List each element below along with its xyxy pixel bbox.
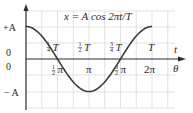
svg-text:π: π [86, 63, 92, 75]
svg-text:2: 2 [52, 70, 55, 76]
y-tick-plus-a: +A [3, 22, 17, 33]
x-tick-angle-3: 32π [115, 63, 127, 76]
x-tick-angle-4: 2π [144, 63, 156, 75]
chart-title: x = A cos 2πt/T [63, 10, 132, 22]
svg-text:T: T [148, 41, 155, 53]
svg-text:π: π [58, 63, 64, 75]
svg-text:2π: 2π [144, 63, 156, 75]
svg-text:T: T [84, 41, 91, 53]
svg-text:T: T [53, 41, 60, 53]
x-axis-label-t: t [174, 43, 178, 55]
x-axis-label-theta: θ [173, 62, 179, 74]
x-tick-time-3: 34T [110, 41, 123, 53]
y-tick-zero-bottom: 0 [6, 61, 11, 72]
x-tick-time-2: 12T [78, 41, 91, 53]
x-tick-time-1: 14T [47, 41, 60, 53]
y-axis-arrow-icon [24, 4, 29, 11]
svg-text:2: 2 [79, 47, 82, 53]
x-tick-time-4: T [148, 41, 155, 53]
x-axis-arrow-icon [178, 57, 186, 62]
svg-text:2: 2 [115, 70, 118, 76]
x-tick-angle-1: 12π [52, 63, 64, 76]
svg-text:4: 4 [110, 47, 113, 53]
cosine-chart: x = A cos 2πt/T +A 0 0 − A 14T12T34TT12π… [0, 0, 193, 113]
svg-text:4: 4 [47, 47, 50, 53]
y-tick-minus-a: − A [4, 87, 20, 98]
y-tick-zero-top: 0 [6, 47, 11, 58]
svg-text:π: π [121, 63, 127, 75]
x-tick-angle-2: π [86, 63, 92, 75]
svg-text:T: T [116, 41, 123, 53]
